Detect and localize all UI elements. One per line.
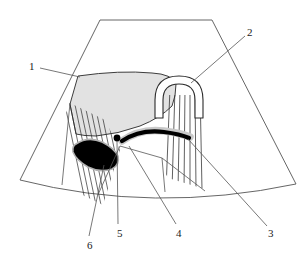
diagram-canvas [0, 0, 307, 276]
leader-line-2 [191, 36, 245, 83]
label-leader-lines [40, 36, 267, 236]
focal-dot [114, 135, 121, 142]
label-6: 6 [87, 240, 93, 251]
leader-line-4 [129, 146, 176, 224]
label-1: 1 [29, 61, 35, 72]
leader-line-5 [117, 141, 118, 224]
leader-line-6 [89, 165, 104, 236]
label-3: 3 [268, 228, 274, 239]
solid-oval-lesion [73, 139, 119, 170]
leader-line-3 [188, 139, 267, 226]
label-2: 2 [247, 27, 253, 38]
ultrasound-diagram-figure: 1 2 3 4 5 6 [0, 0, 307, 276]
label-4: 4 [176, 228, 182, 239]
arch-structure [155, 76, 203, 118]
solid-band [122, 130, 190, 141]
label-5: 5 [117, 228, 123, 239]
